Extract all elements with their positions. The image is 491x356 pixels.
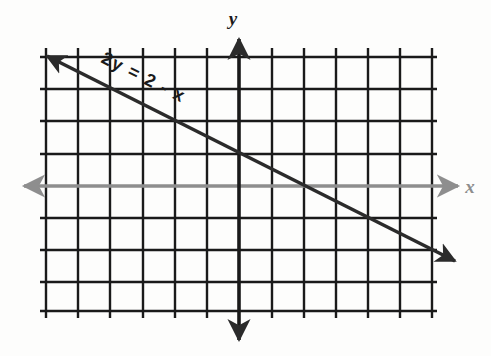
plotted-line-2y-equals-2-minus-x	[47, 56, 455, 261]
x-axis-label: x	[464, 176, 475, 197]
coordinate-plane-figure: y x 2y = 2 - x	[0, 0, 491, 356]
graph-screenshot: y x 2y = 2 - x	[0, 0, 491, 356]
y-axis-label: y	[227, 8, 238, 29]
